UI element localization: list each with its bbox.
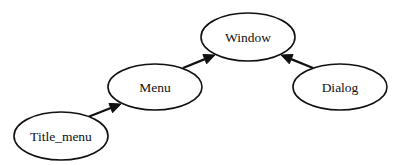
class-diagram: WindowMenuDialogTitle_menu — [0, 0, 402, 165]
edge-line — [291, 59, 313, 68]
node-window[interactable]: Window — [201, 13, 295, 61]
arrowhead-icon — [203, 55, 215, 64]
node-title-menu[interactable]: Title_menu — [14, 112, 108, 160]
node-label: Title_menu — [30, 129, 92, 144]
edge-title_menu-to-menu — [88, 103, 121, 117]
node-menu[interactable]: Menu — [108, 64, 202, 110]
edge-menu-to-window — [183, 55, 215, 68]
arrowhead-icon — [109, 103, 121, 112]
edge-line — [183, 59, 205, 68]
arrowhead-icon — [281, 55, 293, 64]
node-label: Dialog — [322, 80, 359, 95]
edge-dialog-to-window — [281, 55, 313, 68]
node-dialog[interactable]: Dialog — [293, 64, 387, 110]
nodes: WindowMenuDialogTitle_menu — [14, 13, 387, 160]
node-label: Menu — [139, 80, 171, 95]
node-label: Window — [225, 30, 271, 45]
edge-line — [88, 108, 111, 117]
